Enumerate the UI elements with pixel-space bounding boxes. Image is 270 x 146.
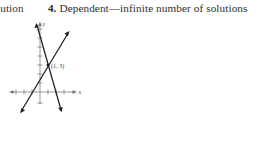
intersection-point-label: (1, 3) xyxy=(51,62,64,70)
graph-line-2-arrowhead-end xyxy=(58,107,63,112)
answer-text-line: lution 4.Dependent—infinite number of so… xyxy=(0,1,270,17)
graph-line-positive-slope xyxy=(23,35,68,109)
graph-line-1-arrowhead-end xyxy=(65,31,70,36)
page-canvas: lution 4.Dependent—infinite number of so… xyxy=(0,0,270,146)
answer-item-number: 4. xyxy=(48,2,56,14)
coordinate-graph-svg: y x (1, 3) xyxy=(2,18,114,128)
x-axis-arrowhead-right xyxy=(73,90,78,93)
y-axis-label: y xyxy=(42,21,46,27)
answer-item-4: 4.Dependent—infinite number of solutions xyxy=(48,1,248,15)
answer-item-text: Dependent—infinite number of solutions xyxy=(59,2,247,14)
graph-line-1-arrowhead-start xyxy=(20,108,25,113)
cut-off-text-fragment: lution xyxy=(0,1,24,15)
coordinate-graph-figure: y x (1, 3) xyxy=(2,18,114,128)
x-axis-arrowhead-left xyxy=(9,90,14,93)
y-axis-arrowhead xyxy=(38,22,41,27)
x-axis-label: x xyxy=(78,89,82,95)
graph-line-2-arrowhead-start xyxy=(34,23,39,28)
intersection-point-dot xyxy=(47,64,50,67)
